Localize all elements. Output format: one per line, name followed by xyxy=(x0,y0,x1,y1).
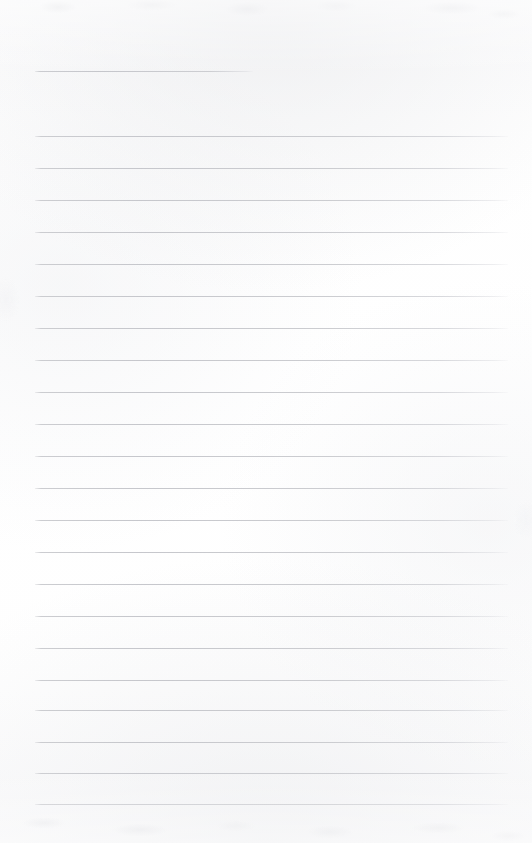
rule-line xyxy=(35,520,508,521)
rule-line xyxy=(35,264,508,265)
rule-line xyxy=(35,710,508,711)
rule-line xyxy=(35,232,508,233)
rule-line xyxy=(35,328,508,329)
rule-line xyxy=(35,616,508,617)
rule-line xyxy=(35,584,508,585)
rule-line xyxy=(35,680,508,681)
rule-line xyxy=(35,296,508,297)
scanned-page xyxy=(0,0,532,843)
rule-line xyxy=(35,648,508,649)
rule-line xyxy=(35,200,508,201)
rule-line xyxy=(35,742,508,743)
rule-line xyxy=(35,136,508,137)
rule-line xyxy=(35,773,508,774)
ruled-lines-group xyxy=(0,0,532,843)
rule-line xyxy=(35,424,508,425)
rule-line xyxy=(35,360,508,361)
rule-line xyxy=(35,552,508,553)
rule-line xyxy=(35,168,508,169)
rule-line xyxy=(35,804,508,805)
rule-line xyxy=(35,488,508,489)
rule-line xyxy=(35,392,508,393)
title-rule-line xyxy=(35,71,253,72)
rule-line xyxy=(35,456,508,457)
